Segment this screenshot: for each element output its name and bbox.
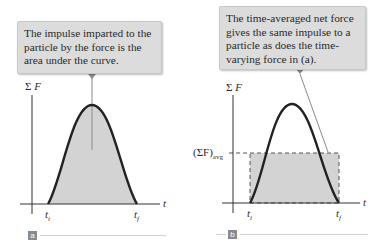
panel-b-rule-left [216, 234, 226, 235]
callout-b: The time-averaged net force gives the sa… [219, 6, 366, 70]
callout-a: The impulse imparted to the particle by … [17, 21, 162, 74]
panel-a-rule [40, 235, 166, 236]
callout-a-pointer-tip [88, 74, 96, 79]
callout-b-text: The time-averaged net force gives the sa… [226, 12, 354, 65]
ti-label-b: ti [247, 207, 252, 222]
callout-a-text: The impulse imparted to the particle by … [24, 27, 151, 66]
y-axis-label-b: Σ F [226, 81, 242, 93]
x-axis-label-b: t [363, 196, 366, 208]
panel-tag-a: a [28, 231, 37, 240]
panel-b-rule [240, 234, 368, 235]
panel-a-graph [20, 74, 160, 214]
tf-label-b: tf [336, 207, 341, 222]
x-axis-label-a: t [163, 197, 166, 209]
ti-label-a: ti [45, 208, 50, 223]
avg-force-label: (ΣF)avg [193, 146, 223, 161]
panel-b-graph [222, 69, 360, 213]
tf-label-a: tf [134, 208, 139, 223]
panel-tag-b: b [228, 230, 237, 239]
y-axis-label-a: Σ F [25, 80, 41, 92]
